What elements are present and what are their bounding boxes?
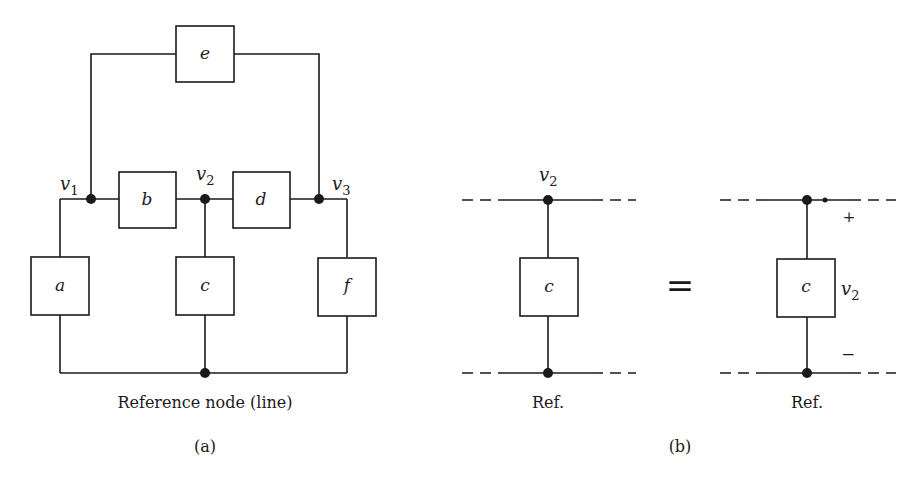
node-v2-label: v2 — [196, 163, 214, 188]
minus-sign: − — [841, 344, 855, 364]
circuit-diagram: e b d a c f v1 v2 v3 Reference node (lin… — [0, 0, 918, 483]
panel-b-label: (b) — [669, 437, 692, 456]
panel-b: c v2 Ref. = c + v2 − Ref. — [462, 164, 896, 456]
node-v2-dot — [802, 195, 812, 205]
element-b-label: b — [142, 189, 153, 209]
node-v1-dot — [86, 194, 96, 204]
element-a-label: a — [55, 275, 65, 295]
element-c-label: c — [200, 275, 210, 295]
panel-b-right: c + v2 − Ref. — [720, 195, 896, 412]
node-v3-dot — [314, 194, 324, 204]
element-e-label: e — [200, 43, 210, 63]
node-v3-label: v3 — [332, 173, 350, 198]
terminal-dot — [823, 198, 828, 203]
panel-b-left: c v2 Ref. — [462, 164, 636, 412]
panel-a: e b d a c f v1 v2 v3 Reference node (lin… — [31, 26, 376, 456]
voltage-v2-label: v2 — [841, 278, 859, 303]
reference-node-dot — [543, 368, 553, 378]
plus-sign: + — [843, 208, 856, 226]
node-v2-label: v2 — [539, 164, 557, 189]
ref-label: Ref. — [791, 393, 823, 412]
ref-label: Ref. — [532, 393, 564, 412]
node-v1-label: v1 — [60, 173, 78, 198]
element-c-label: c — [544, 276, 554, 296]
reference-node-caption: Reference node (line) — [117, 393, 292, 412]
node-v2-dot — [543, 195, 553, 205]
reference-node-dot — [200, 368, 210, 378]
element-c-label: c — [801, 276, 811, 296]
element-d-label: d — [256, 189, 267, 209]
panel-a-label: (a) — [194, 437, 216, 456]
node-v2-dot — [200, 194, 210, 204]
equals-sign: = — [666, 265, 695, 305]
reference-node-dot — [802, 368, 812, 378]
